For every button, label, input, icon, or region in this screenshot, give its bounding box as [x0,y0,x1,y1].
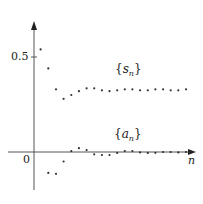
data-point [86,149,88,151]
data-point [131,88,133,90]
data-point [185,151,187,153]
data-point [116,89,118,91]
data-point [78,90,80,92]
series-label-s: {sn} [115,63,142,78]
data-point [78,147,80,149]
series-s-points [40,48,188,100]
data-point [177,151,179,153]
data-point [47,172,49,174]
data-point [147,152,149,154]
data-point [147,89,149,91]
data-point [55,173,57,175]
x-axis-label: n [188,155,195,166]
data-point [124,150,126,152]
data-point [108,90,110,92]
data-point [139,151,141,153]
data-point [93,87,95,89]
data-point [108,154,110,156]
data-point [124,88,126,90]
brace-close: } [134,127,142,141]
data-point [63,160,65,162]
origin-label: 0 [23,154,30,165]
data-point [93,153,95,155]
data-point [47,67,49,69]
data-point [63,98,65,100]
data-point [40,48,42,50]
data-point [154,88,156,90]
data-point [177,89,179,91]
chart-canvas [0,0,203,204]
data-point [162,151,164,153]
data-point [162,88,164,90]
y-axis [31,21,37,190]
brace-open: { [114,127,122,141]
data-point [154,152,156,154]
series-label-a: {an} [114,128,142,143]
data-point [185,88,187,90]
data-point [170,89,172,91]
y-axis-arrow-icon [31,21,37,30]
data-point [116,152,118,154]
data-point [55,88,57,90]
data-point [70,150,72,152]
data-point [101,89,103,91]
data-point [70,94,72,96]
brace-close: } [134,62,142,76]
series-a-symbol: a [122,127,129,141]
data-point [86,87,88,89]
data-point [170,151,172,153]
y-tick-label: 0.5 [11,51,29,62]
data-point [101,154,103,156]
data-point [131,150,133,152]
series-a-points [47,147,187,175]
brace-open: { [115,62,123,76]
data-point [139,89,141,91]
